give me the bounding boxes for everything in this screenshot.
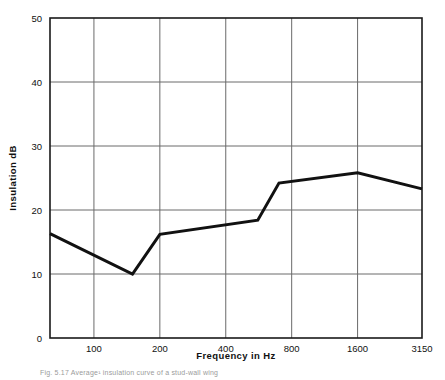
y-tick-label-40: 40 <box>31 77 42 88</box>
x-axis-title: Frequency in Hz <box>196 350 275 361</box>
plot-background <box>50 18 422 338</box>
y-axis-tick-labels: 01020304050 <box>31 13 42 344</box>
y-axis-title: Insulation dB <box>7 145 18 210</box>
y-tick-label-50: 50 <box>31 13 42 24</box>
figure-caption: Fig. 5.17 Average¹ insulation curve of a… <box>40 369 218 376</box>
x-tick-label-100: 100 <box>86 343 102 354</box>
figure-container: 01020304050 10020040080016003150 Insulat… <box>0 0 445 380</box>
x-tick-label-800: 800 <box>284 343 300 354</box>
y-tick-label-10: 10 <box>31 269 42 280</box>
x-tick-label-1600: 1600 <box>347 343 368 354</box>
x-tick-label-200: 200 <box>152 343 168 354</box>
insulation-frequency-chart: 01020304050 10020040080016003150 Insulat… <box>0 0 445 380</box>
y-tick-label-30: 30 <box>31 141 42 152</box>
y-tick-label-20: 20 <box>31 205 42 216</box>
x-tick-label-3150: 3150 <box>411 343 432 354</box>
y-tick-label-0: 0 <box>37 333 42 344</box>
